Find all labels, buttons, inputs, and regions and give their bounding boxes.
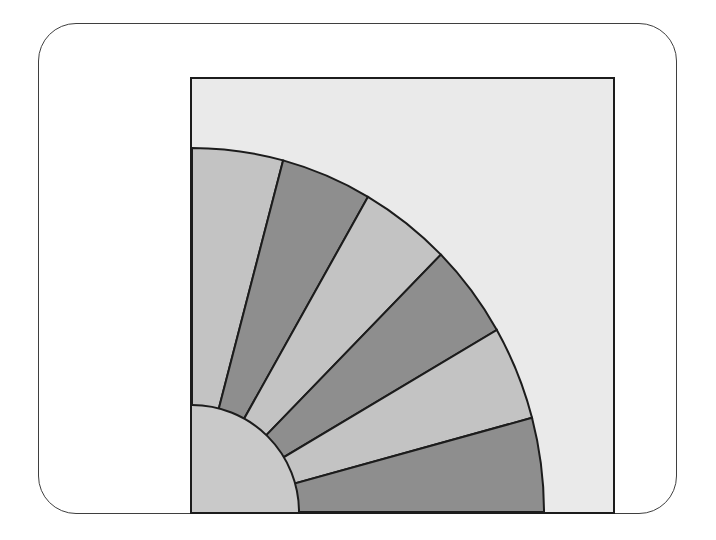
- slide-card: [38, 23, 677, 514]
- fan-graphic: [192, 79, 613, 512]
- fan-panel: [190, 77, 615, 514]
- page-background: [0, 0, 716, 540]
